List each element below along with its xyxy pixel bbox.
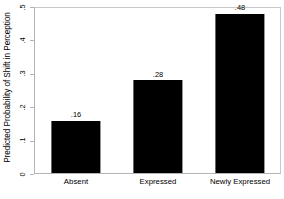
- x-axis-tick-labels: AbsentExpressedNewly Expressed: [35, 177, 281, 193]
- bar-slot: .48: [199, 7, 281, 174]
- y-axis-tick-label-text: .1: [18, 138, 27, 144]
- y-axis-tick-label: .2: [16, 102, 29, 113]
- y-axis-tick-mark: [30, 74, 34, 75]
- y-axis-tick-label-text: .2: [18, 104, 27, 110]
- y-axis-tick-mark: [30, 40, 34, 41]
- y-axis-tick-mark: [30, 141, 34, 142]
- x-axis-category-label: Newly Expressed: [199, 177, 281, 186]
- bar-slot: .16: [35, 7, 117, 174]
- bar-value-label: .48: [235, 3, 245, 12]
- y-axis-tick-mark: [30, 174, 34, 175]
- y-axis-tick-label: .1: [16, 135, 29, 146]
- bar-chart-figure: Predicted Probability of Shift in Percep…: [0, 0, 284, 199]
- y-axis-tick-label: .3: [16, 68, 29, 79]
- y-axis-tick-label-text: .4: [18, 37, 27, 43]
- plot-area: .16.28.48: [35, 7, 281, 174]
- bar[interactable]: [133, 80, 182, 174]
- bar-slot: .28: [117, 7, 199, 174]
- y-axis-tick-label-text: .5: [18, 4, 27, 10]
- y-axis-tick-label: .5: [16, 2, 29, 13]
- y-axis-tick-label: .4: [16, 35, 29, 46]
- x-axis-line: [34, 173, 281, 174]
- y-axis-tick-label: 0: [16, 169, 29, 180]
- y-axis-tick-labels: 0.1.2.3.4.5: [16, 0, 29, 199]
- y-axis-tick-label-text: .3: [18, 71, 27, 77]
- x-axis-category-label: Absent: [35, 177, 117, 186]
- bar-value-label: .28: [153, 70, 163, 79]
- y-axis-tick-mark: [30, 107, 34, 108]
- bar[interactable]: [215, 14, 264, 174]
- y-axis-tick-label-text: 0: [18, 172, 27, 176]
- y-axis-title-text: Predicted Probability of Shift in Percep…: [3, 12, 12, 163]
- y-axis-title: Predicted Probability of Shift in Percep…: [0, 0, 14, 175]
- bar[interactable]: [51, 121, 100, 174]
- x-axis-category-label: Expressed: [117, 177, 199, 186]
- y-axis-tick-mark: [30, 7, 34, 8]
- bar-value-label: .16: [71, 110, 81, 119]
